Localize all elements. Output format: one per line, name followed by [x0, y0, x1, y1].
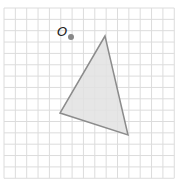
- point-o-dot: [68, 34, 74, 40]
- geometry-figure: O: [0, 0, 180, 185]
- point-o-label: O: [57, 24, 67, 39]
